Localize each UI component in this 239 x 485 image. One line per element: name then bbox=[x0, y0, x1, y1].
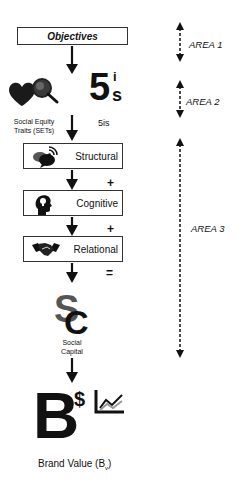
cognitive-label: Cognitive bbox=[76, 198, 118, 209]
area-2-label: AREA 2 bbox=[186, 96, 219, 107]
5is-label: 5is bbox=[98, 118, 110, 128]
head-lightbulb-icon bbox=[34, 194, 60, 214]
relational-label: Relational bbox=[74, 244, 118, 255]
social-capital-logo: S C bbox=[54, 292, 94, 336]
svg-text:C: C bbox=[64, 303, 89, 341]
heart-magnifier-icon bbox=[7, 78, 62, 112]
arrow-down-3 bbox=[66, 170, 78, 190]
arrow-down-1 bbox=[66, 46, 78, 74]
arrow-down-4 bbox=[66, 217, 78, 236]
social-capital-label: Social Capital bbox=[52, 338, 92, 356]
area3-arrow bbox=[176, 138, 184, 358]
chat-bubbles-wifi-icon bbox=[32, 147, 58, 167]
cognitive-box: Cognitive bbox=[23, 190, 123, 216]
sets-label: Social Equity Traits (SETs) bbox=[3, 117, 65, 135]
5is-logo: 5 i s bbox=[89, 71, 129, 111]
dollar-icon: $ bbox=[74, 388, 85, 411]
plus-operator-2: + bbox=[107, 222, 114, 236]
area-1-label: AREA 1 bbox=[189, 39, 222, 50]
plus-operator-1: + bbox=[107, 176, 114, 190]
arrow-down-2 bbox=[66, 115, 78, 141]
area1-arrow bbox=[176, 22, 184, 62]
structural-label: Structural bbox=[75, 151, 118, 162]
line-chart-icon bbox=[94, 390, 126, 416]
structural-box: Structural bbox=[23, 143, 123, 169]
equals-operator: = bbox=[106, 266, 113, 280]
area-3-label: AREA 3 bbox=[191, 223, 224, 234]
brand-value-label: Brand Value (Bv) bbox=[38, 458, 111, 471]
relational-box: Relational bbox=[23, 236, 123, 262]
area2-arrow bbox=[176, 80, 184, 118]
brand-b-logo: B bbox=[33, 384, 79, 448]
arrow-down-5 bbox=[66, 263, 78, 283]
handshake-icon bbox=[32, 240, 58, 260]
